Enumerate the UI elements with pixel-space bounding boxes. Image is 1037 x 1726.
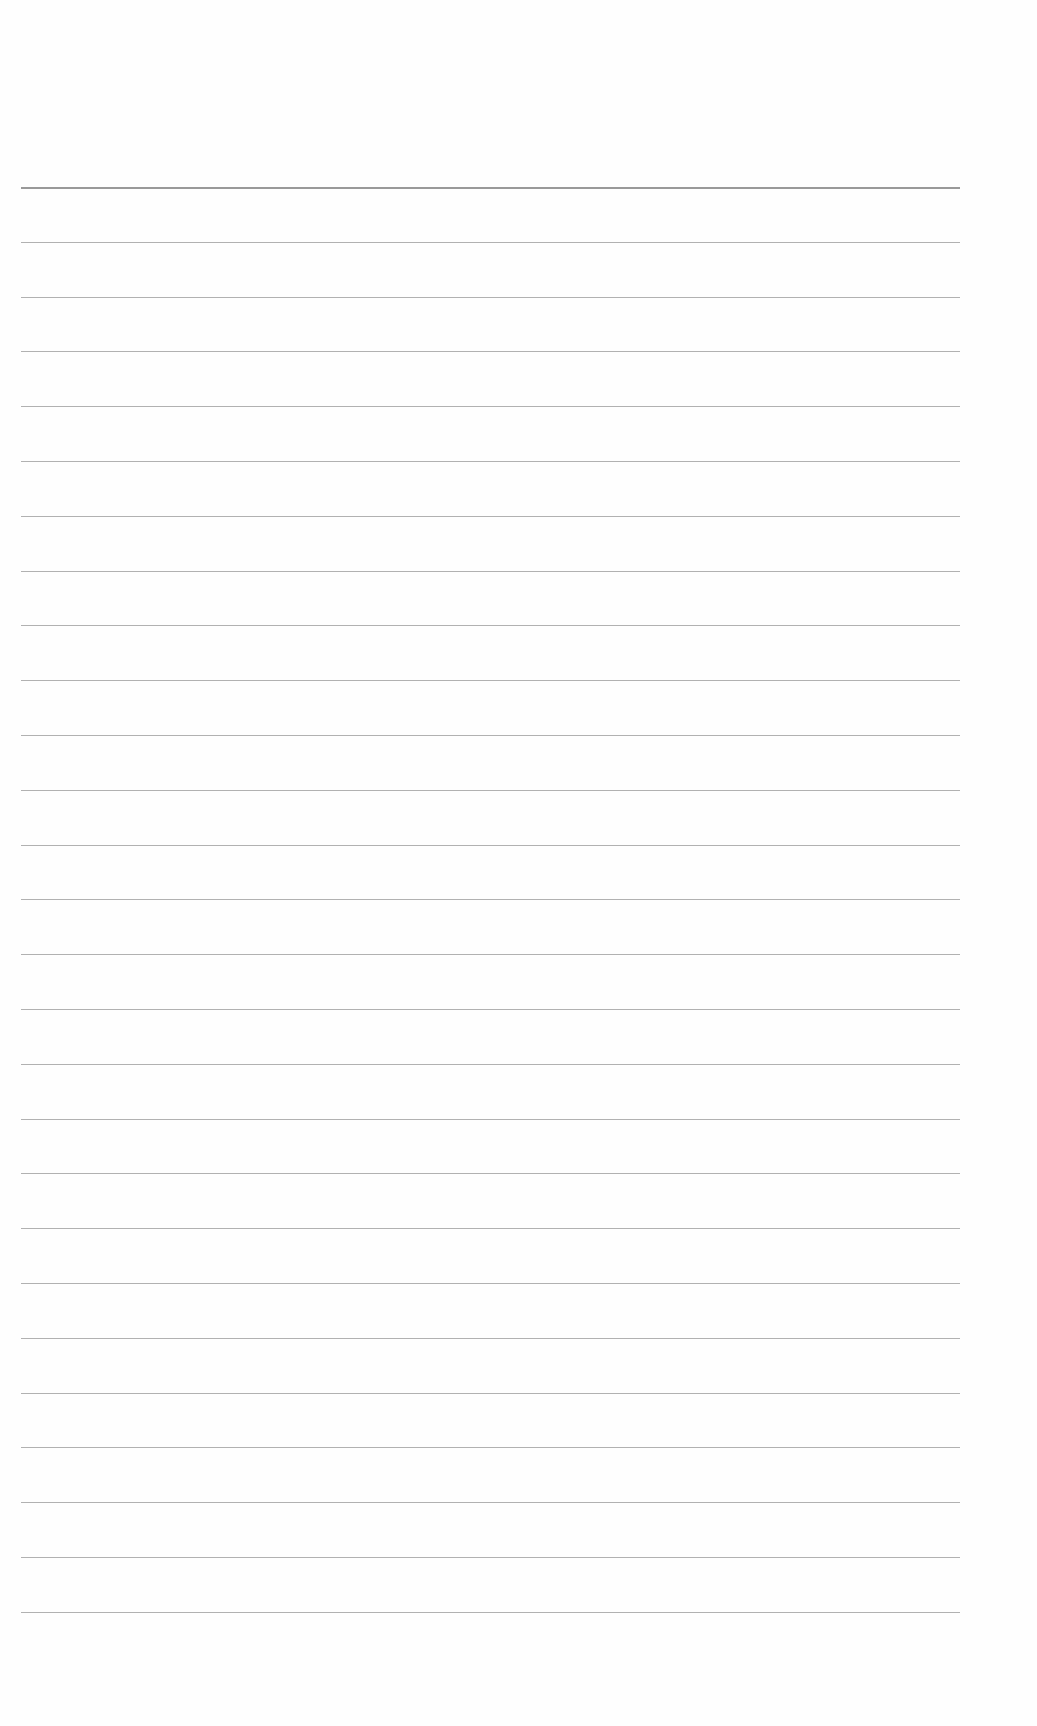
- ruled-line: [21, 1119, 960, 1120]
- ruled-line: [21, 845, 960, 846]
- ruled-line: [21, 1009, 960, 1010]
- ruled-line: [21, 1338, 960, 1339]
- ruled-line: [21, 1173, 960, 1174]
- ruled-line: [21, 625, 960, 626]
- ruled-line: [21, 406, 960, 407]
- ruled-line: [21, 571, 960, 572]
- ruled-line: [21, 954, 960, 955]
- ruled-line: [21, 242, 960, 243]
- ruled-line: [21, 899, 960, 900]
- ruled-line: [21, 735, 960, 736]
- ruled-line: [21, 1447, 960, 1448]
- ruled-line: [21, 1064, 960, 1065]
- ruled-line: [21, 1393, 960, 1394]
- ruled-line: [21, 187, 960, 189]
- ruled-line: [21, 1502, 960, 1503]
- ruled-line: [21, 516, 960, 517]
- ruled-line: [21, 1557, 960, 1558]
- ruled-line: [21, 1283, 960, 1284]
- ruled-line: [21, 351, 960, 352]
- ruled-line: [21, 790, 960, 791]
- ruled-line: [21, 1612, 960, 1613]
- ruled-line: [21, 680, 960, 681]
- ruled-line: [21, 461, 960, 462]
- lined-paper-page: [0, 0, 1037, 1726]
- ruled-line: [21, 1228, 960, 1229]
- ruled-line: [21, 297, 960, 298]
